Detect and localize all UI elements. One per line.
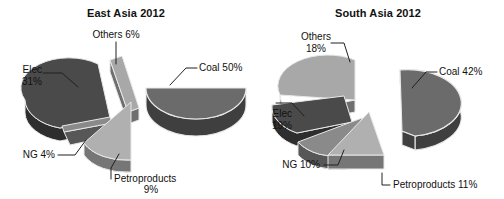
label-petroproducts-east-line2: 9%: [114, 184, 188, 196]
label-others-south-line2: 18%: [290, 43, 342, 55]
label-petroproducts-south: Petroproducts 11%: [393, 179, 477, 191]
label-ng-south: NG 10%: [252, 159, 320, 171]
label-elec-south-line2: 19%: [252, 120, 292, 132]
label-petroproducts-east-line1: Petroproducts: [114, 173, 176, 185]
leader-coal-east: [170, 68, 197, 85]
chart-south-asia-2012: South Asia 2012: [252, 0, 504, 199]
leader-petroproducts-south: [382, 173, 390, 185]
pie-slice-coal-east[interactable]: [146, 88, 246, 136]
label-others-south-line1: Others: [290, 31, 342, 43]
label-others-east: Others 6%: [78, 29, 154, 41]
label-coal-south: Coal 42%: [439, 66, 482, 78]
label-ng-east: NG 4%: [0, 149, 55, 161]
pie-slice-coal-south[interactable]: [400, 70, 461, 150]
chart-east-asia-2012: East Asia 2012: [0, 0, 252, 199]
label-coal-east: Coal 50%: [199, 62, 242, 74]
label-elec-east-line1: Elec: [0, 64, 42, 76]
label-elec-east-line2: 31%: [0, 76, 42, 88]
label-elec-south-line1: Elec: [252, 108, 292, 120]
